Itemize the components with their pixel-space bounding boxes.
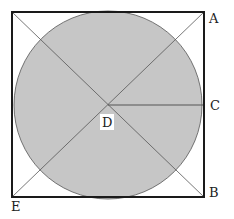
label-a: A [208,11,219,26]
label-e: E [11,199,21,214]
label-d: D [102,115,112,130]
label-c: C [210,98,220,113]
geometry-diagram: D A C B E [0,0,234,219]
label-b: B [209,185,219,200]
